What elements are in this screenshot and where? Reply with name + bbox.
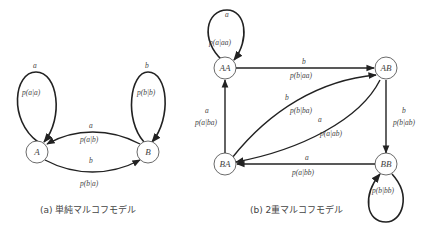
node-A-label: A	[33, 147, 40, 157]
edge-loop-B	[132, 72, 166, 142]
edge-prob: p(b|aa)	[289, 71, 313, 80]
edge-symbol: b	[145, 61, 149, 70]
markov-diagrams: a p(a|a) b p(b|b) a p(a|b) b . p(b|a) A …	[0, 0, 431, 234]
caption-a: (a) 単純マルコフモデル	[40, 203, 136, 216]
edge-symbol: b	[89, 156, 93, 165]
second-order-markov-diagram: a p(a|aa) b p(b|aa) b p(b|ba) a p(a|ab) …	[194, 10, 416, 222]
edge-prob: p(a|bb)	[291, 168, 315, 177]
edge-symbol: b	[402, 106, 406, 115]
edge-prob: p(b|bb)	[371, 186, 395, 195]
edge-prob: p(a|a)	[21, 88, 41, 97]
edge-symbol: b	[302, 57, 306, 66]
edge-AB-to-BA	[236, 80, 380, 162]
edge-prob: p(a|ba)	[194, 118, 218, 127]
edge-prob: p(b|ba)	[289, 106, 313, 115]
node-AA-label: AA	[219, 63, 231, 73]
node-BB-label: BB	[381, 159, 392, 169]
edge-symbol: a	[33, 61, 37, 70]
edge-prob: p(b|b)	[136, 88, 156, 97]
edge-prob: p(a|ab)	[319, 129, 343, 138]
node-B-label: B	[145, 147, 151, 157]
edge-symbol: b	[285, 93, 289, 102]
edge-symbol: a	[305, 153, 309, 162]
simple-markov-diagram: a p(a|a) b p(b|b) a p(a|b) b . p(b|a) A …	[17, 61, 165, 188]
node-AB-label: AB	[380, 63, 392, 73]
node-BA-label: BA	[220, 159, 231, 169]
edge-prob: p(a|aa)	[208, 38, 232, 47]
edge-symbol: a	[225, 10, 229, 19]
edge-BA-to-AB	[232, 75, 376, 158]
edge-prob: p(b|a)	[79, 179, 99, 188]
edge-symbol: a	[205, 106, 209, 115]
edge-prob: p(a|b)	[79, 135, 99, 144]
edge-prob: p(b|ab)	[392, 118, 416, 127]
caption-b: (b) 2重マルコフモデル	[250, 203, 343, 216]
edge-loop-A	[17, 72, 56, 142]
edge-symbol: a	[318, 115, 322, 124]
edge-loop-BB	[369, 174, 404, 222]
edge-symbol: a	[89, 121, 93, 130]
